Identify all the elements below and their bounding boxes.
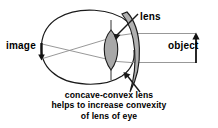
- ray-lower-mid: [117, 62, 131, 63]
- label-lens: lens: [140, 11, 161, 22]
- caption-block: concave-convex lens helps to increase co…: [0, 90, 218, 121]
- eye-optics-diagram: image lens object concave-convex lens he…: [0, 0, 218, 128]
- ray-upper-mid: [119, 34, 133, 36]
- caption-line-1: concave-convex lens: [0, 90, 218, 100]
- caption-line-2: helps to increase convexity: [0, 100, 218, 110]
- label-object: object: [168, 40, 199, 51]
- caption-line-3: of lens of eye: [0, 111, 218, 121]
- label-image: image: [6, 40, 36, 51]
